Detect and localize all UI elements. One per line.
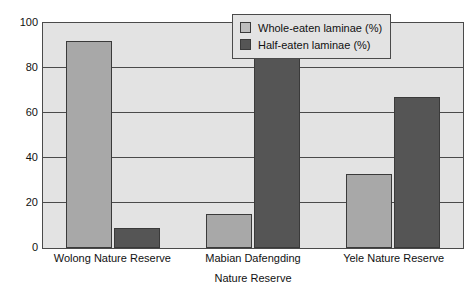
- bar-half-eaten-1: [114, 228, 160, 248]
- bar-whole-eaten-1: [66, 41, 112, 248]
- y-axis: 100 80 60 40 20 0: [0, 0, 38, 304]
- legend-swatch-icon: [240, 22, 251, 33]
- y-tick-label: 60: [4, 107, 38, 118]
- bar-whole-eaten-3: [346, 174, 392, 248]
- bar-half-eaten-2: [254, 55, 300, 249]
- x-axis: Wolong Nature Reserve Mabian Dafengding …: [42, 252, 464, 270]
- x-tick-label: Wolong Nature Reserve: [42, 252, 183, 270]
- x-tick-label: Yele Nature Reserve: [323, 252, 464, 270]
- x-tick-label: Mabian Dafengding: [183, 252, 324, 270]
- legend-item-label: Half-eaten laminae (%): [258, 39, 371, 51]
- y-tick-label: 40: [4, 152, 38, 163]
- bar-whole-eaten-2: [206, 214, 252, 248]
- bar-chart: 100 80 60 40 20 0 Whole-eaten laminae (%…: [0, 0, 474, 304]
- legend-swatch-icon: [240, 39, 251, 50]
- bar-half-eaten-3: [394, 97, 440, 248]
- y-tick-label: 20: [4, 197, 38, 208]
- y-tick-label: 100: [4, 17, 38, 28]
- y-tick-label: 0: [4, 242, 38, 253]
- legend-item-label: Whole-eaten laminae (%): [258, 22, 382, 34]
- legend-item-whole-eaten: Whole-eaten laminae (%): [240, 19, 382, 36]
- legend-item-half-eaten: Half-eaten laminae (%): [240, 36, 382, 53]
- legend: Whole-eaten laminae (%) Half-eaten lamin…: [232, 14, 391, 59]
- y-tick-label: 80: [4, 62, 38, 73]
- x-axis-title: Nature Reserve: [42, 272, 464, 284]
